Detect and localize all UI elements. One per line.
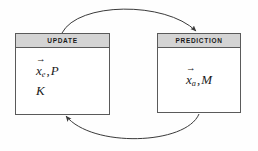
node-update-header: UPDATE — [16, 34, 109, 48]
matrix-symbol-m: M — [201, 72, 212, 87]
node-update-body: →xe,P K — [16, 48, 109, 114]
diagram-canvas: UPDATE →xe,P K PREDICTION →xa,M — [0, 0, 258, 151]
vector-arrow-accent-icon: → — [186, 64, 192, 73]
vector-arrow-accent-icon: → — [36, 55, 42, 64]
arrow-prediction-to-update — [66, 114, 199, 139]
vector-base-symbol: x — [186, 72, 192, 87]
matrix-symbol-k: K — [36, 83, 45, 98]
vector-base-symbol: x — [36, 63, 42, 78]
node-update[interactable]: UPDATE →xe,P K — [15, 33, 110, 115]
node-prediction[interactable]: PREDICTION →xa,M — [157, 33, 241, 113]
node-update-gain-line: K — [36, 81, 45, 101]
node-prediction-body: →xa,M — [158, 48, 240, 112]
vector-x-a: →x — [186, 70, 192, 90]
node-prediction-header: PREDICTION — [158, 34, 240, 48]
arrow-update-to-prediction — [62, 9, 196, 33]
vector-x-e: →x — [36, 61, 42, 81]
node-update-state-line: →xe,P — [36, 61, 59, 81]
matrix-symbol-p: P — [51, 63, 59, 78]
vector-subscript: e — [42, 70, 46, 79]
node-prediction-state-line: →xa,M — [186, 70, 212, 90]
vector-subscript: a — [192, 79, 196, 88]
